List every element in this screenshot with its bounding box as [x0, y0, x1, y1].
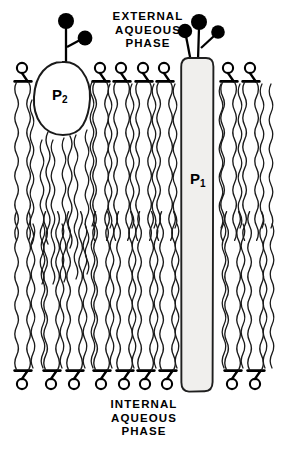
protein-2-label-base: P — [52, 86, 62, 103]
protein-1-body — [181, 58, 213, 392]
membrane-diagram-figure: EXTERNAL AQUEOUS PHASE INTERNAL AQUEOUS … — [0, 0, 282, 452]
lipid-molecule — [157, 63, 174, 241]
lipid-molecule — [114, 63, 131, 241]
lipid-molecule — [243, 63, 260, 241]
protein-2-glycan-group — [58, 13, 92, 64]
lipid-molecule — [117, 212, 134, 389]
lipid-molecule — [160, 212, 177, 389]
protein-2-label-subscript: 2 — [62, 94, 68, 105]
lipid-molecule — [248, 212, 265, 389]
protein-1-label-subscript: 1 — [200, 178, 206, 189]
glycan-sphere — [58, 13, 74, 29]
glycan-sphere — [211, 25, 225, 39]
lipid-molecule — [221, 63, 238, 241]
protein-2-anchor-tail — [68, 136, 72, 248]
lipid-molecule — [67, 212, 84, 389]
protein-2-label: P2 — [52, 86, 68, 105]
protein-1-label: P1 — [190, 170, 206, 189]
protein-1[interactable] — [178, 14, 225, 392]
glycan-sphere — [78, 31, 93, 46]
membrane-diagram-svg — [0, 0, 282, 452]
external-aqueous-phase-label: EXTERNAL AQUEOUS PHASE — [92, 10, 204, 51]
internal-aqueous-phase-label: INTERNAL AQUEOUS PHASE — [88, 398, 200, 439]
lipid-molecule — [138, 212, 155, 389]
lipid-molecule — [225, 212, 242, 389]
protein-1-label-base: P — [190, 170, 200, 187]
